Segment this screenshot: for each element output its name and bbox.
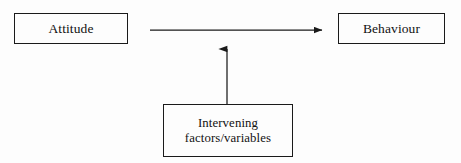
node-attitude: Attitude xyxy=(14,13,128,44)
node-behaviour-label: Behaviour xyxy=(363,21,420,36)
node-intervening-label-line-2: factors/variables xyxy=(185,131,271,145)
diagram-canvas: Attitude Behaviour Intervening factors/v… xyxy=(0,0,461,163)
node-behaviour: Behaviour xyxy=(338,13,445,44)
node-intervening: Intervening factors/variables xyxy=(163,104,293,157)
node-attitude-label: Attitude xyxy=(48,21,93,36)
node-intervening-label-line-1: Intervening xyxy=(198,116,258,130)
